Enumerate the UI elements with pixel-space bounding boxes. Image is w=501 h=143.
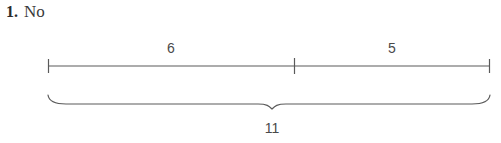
worksheet-answer-figure: 1.No 6 5 11 bbox=[0, 0, 501, 143]
total-brace-path bbox=[48, 95, 490, 109]
segment-label-left: 6 bbox=[167, 41, 175, 55]
number-line-group bbox=[48, 58, 490, 74]
total-brace-group bbox=[48, 95, 490, 109]
segment-label-right: 5 bbox=[388, 41, 396, 55]
number-line-diagram bbox=[0, 0, 501, 143]
total-label: 11 bbox=[265, 121, 280, 135]
